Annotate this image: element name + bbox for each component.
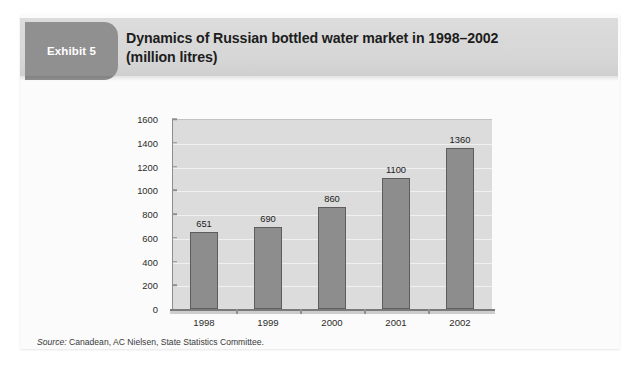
exhibit-badge: Exhibit 5 (25, 22, 118, 80)
exhibit-header: Exhibit 5 Dynamics of Russian bottled wa… (20, 18, 618, 76)
bar (382, 178, 410, 309)
x-axis-line-shadow (170, 311, 495, 314)
y-axis-tick-label: 1200 (137, 161, 158, 172)
y-axis-tick-label: 0 (153, 304, 158, 315)
x-axis-tick-label: 2001 (385, 317, 406, 328)
bar-value-label: 1360 (450, 134, 471, 145)
y-axis-tick-label: 600 (142, 232, 158, 243)
page-title-line-1: Dynamics of Russian bottled water market… (126, 29, 606, 48)
y-axis-tick-label: 200 (142, 280, 158, 291)
y-axis-tick-label: 1000 (137, 185, 158, 196)
x-axis-tick-label: 1998 (193, 317, 214, 328)
source-label: Source: (37, 337, 67, 347)
y-axis-tick-label: 800 (142, 209, 158, 220)
x-axis-tick-mark (236, 309, 238, 314)
x-axis-tick-label: 2002 (449, 317, 470, 328)
page-title: Dynamics of Russian bottled water market… (126, 29, 606, 67)
x-axis-tick-label: 1999 (257, 317, 278, 328)
source-text: Canadean, AC Nielsen, State Statistics C… (67, 337, 264, 347)
bar-value-label: 690 (260, 213, 276, 224)
bars-layer (172, 119, 492, 309)
bar (318, 207, 346, 309)
bar-value-label: 860 (324, 193, 340, 204)
bar-chart: 02004006008001000120014001600 6516908601… (20, 81, 618, 349)
bar (446, 148, 474, 310)
y-axis: 02004006008001000120014001600 (110, 119, 166, 309)
y-axis-tick-label: 1600 (137, 114, 158, 125)
x-axis-tick-label: 2000 (321, 317, 342, 328)
exhibit-card: Exhibit 5 Dynamics of Russian bottled wa… (20, 14, 620, 349)
x-axis-tick-mark (300, 309, 302, 314)
source-note: Source: Canadean, AC Nielsen, State Stat… (37, 337, 264, 347)
page-title-line-2: (million litres) (126, 48, 606, 67)
x-axis-tick-mark (428, 309, 430, 314)
bar (254, 227, 282, 309)
y-axis-tick-label: 400 (142, 256, 158, 267)
y-axis-tick-label: 1400 (137, 137, 158, 148)
x-axis-tick-mark (364, 309, 366, 314)
bar-value-label: 1100 (386, 164, 406, 175)
bar-value-label: 651 (196, 218, 212, 229)
bar (190, 232, 218, 309)
